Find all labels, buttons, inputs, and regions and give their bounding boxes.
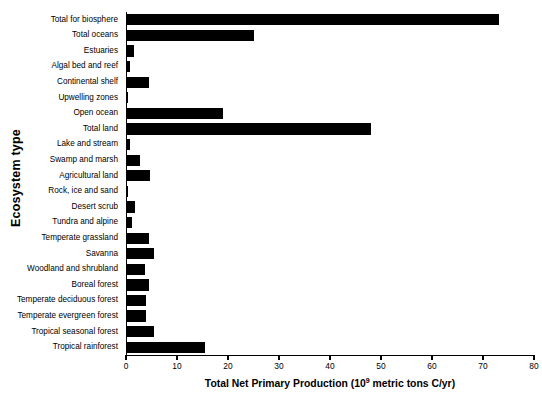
category-label: Desert scrub — [24, 199, 122, 215]
bar — [127, 155, 140, 166]
bar-row — [127, 262, 535, 278]
bar-row — [127, 74, 535, 90]
bar-row — [127, 137, 535, 153]
bar — [127, 123, 371, 134]
bar — [127, 170, 150, 181]
category-label: Temperate grassland — [24, 230, 122, 246]
category-label: Algal bed and reef — [24, 59, 122, 75]
x-tick-label: 10 — [172, 361, 181, 371]
bar — [127, 30, 254, 41]
bar-row — [127, 59, 535, 75]
y-axis-ticks — [0, 12, 1, 355]
bar — [127, 77, 149, 88]
category-label: Agricultural land — [24, 168, 122, 184]
category-label: Upwelling zones — [24, 90, 122, 106]
category-label: Woodland and shrubland — [24, 262, 122, 278]
x-tick-label: 50 — [376, 361, 385, 371]
bar-series — [127, 12, 535, 355]
x-tick-mark — [176, 355, 177, 360]
bar-row — [127, 215, 535, 231]
bar-row — [127, 168, 535, 184]
x-axis-title-before: Total Net Primary Production (10 — [205, 378, 366, 389]
x-tick-mark — [482, 355, 483, 360]
category-label: Lake and stream — [24, 137, 122, 153]
bar — [127, 45, 134, 56]
x-axis-tick-labels: 01020304050607080 — [126, 361, 534, 375]
x-tick-mark — [380, 355, 381, 360]
x-tick-label: 40 — [325, 361, 334, 371]
category-label: Total oceans — [24, 28, 122, 44]
bar — [127, 217, 132, 228]
x-axis-title: Total Net Primary Production (109 metric… — [126, 377, 534, 389]
x-tick-mark — [329, 355, 330, 360]
bar — [127, 92, 128, 103]
category-label: Open ocean — [24, 106, 122, 122]
x-axis-title-after: metric tons C/yr) — [370, 378, 455, 389]
bar-row — [127, 277, 535, 293]
category-label: Boreal forest — [24, 277, 122, 293]
category-label: Continental shelf — [24, 74, 122, 90]
bar — [127, 310, 146, 321]
bar-row — [127, 199, 535, 215]
bar-row — [127, 12, 535, 28]
x-tick-label: 80 — [529, 361, 538, 371]
x-tick-mark — [278, 355, 279, 360]
bar — [127, 14, 499, 25]
bar-row — [127, 121, 535, 137]
bar — [127, 264, 145, 275]
bar — [127, 279, 149, 290]
category-label: Total land — [24, 121, 122, 137]
bar — [127, 326, 154, 337]
bar-row — [127, 230, 535, 246]
x-tick-label: 60 — [427, 361, 436, 371]
bar — [127, 61, 130, 72]
x-tick-label: 0 — [124, 361, 129, 371]
bar — [127, 201, 135, 212]
bar — [127, 342, 205, 353]
bar-row — [127, 339, 535, 355]
bar-row — [127, 152, 535, 168]
category-label: Rock, ice and sand — [24, 184, 122, 200]
x-tick-label: 70 — [478, 361, 487, 371]
bar — [127, 139, 130, 150]
bar — [127, 295, 146, 306]
bar-row — [127, 246, 535, 262]
bar-row — [127, 324, 535, 340]
bar-row — [127, 90, 535, 106]
bar-row — [127, 184, 535, 200]
category-label: Tropical seasonal forest — [24, 324, 122, 340]
bar — [127, 248, 154, 259]
category-label: Temperate evergreen forest — [24, 308, 122, 324]
category-label: Tundra and alpine — [24, 215, 122, 231]
bar — [127, 108, 223, 119]
bar — [127, 186, 128, 197]
category-label: Savanna — [24, 246, 122, 262]
category-label: Temperate deciduous forest — [24, 293, 122, 309]
category-label: Tropical rainforest — [24, 339, 122, 355]
category-label: Total for biosphere — [24, 12, 122, 28]
bar-row — [127, 308, 535, 324]
bar-row — [127, 106, 535, 122]
bar-row — [127, 43, 535, 59]
category-axis-labels: Total for biosphereTotal oceansEstuaries… — [24, 12, 122, 355]
x-tick-mark — [227, 355, 228, 360]
x-tick-mark — [125, 355, 126, 360]
y-axis-title-text: Ecosystem type — [9, 129, 23, 227]
x-tick-mark — [533, 355, 534, 360]
bar — [127, 233, 149, 244]
bar-row — [127, 293, 535, 309]
x-tick-label: 30 — [274, 361, 283, 371]
category-label: Swamp and marsh — [24, 152, 122, 168]
x-tick-mark — [431, 355, 432, 360]
x-tick-label: 20 — [223, 361, 232, 371]
bar-row — [127, 28, 535, 44]
plot-area — [126, 12, 535, 356]
npp-bar-chart-figure: Ecosystem type Total for biosphereTotal … — [0, 0, 542, 409]
category-label: Estuaries — [24, 43, 122, 59]
